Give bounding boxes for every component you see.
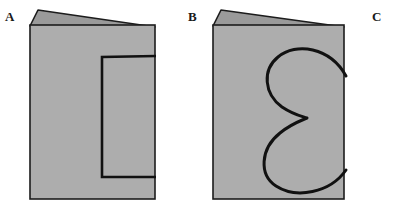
figure-b-card: [0, 0, 401, 213]
figure-b-back-flap: [213, 10, 344, 27]
figure-a-back-flap: [30, 10, 155, 27]
figure-a-front-panel: [30, 25, 155, 199]
figure-label-b: B: [188, 10, 197, 23]
figure-b-front-panel: [213, 25, 344, 199]
figure-a-cut-outline-rectangle: [102, 56, 156, 177]
figure-stage: A B C: [0, 0, 401, 213]
figure-label-c: C: [372, 10, 382, 23]
figure-b-cut-outline-half-heart: [264, 49, 346, 193]
figure-label-a: A: [5, 10, 15, 23]
figure-a-card: [0, 0, 401, 213]
